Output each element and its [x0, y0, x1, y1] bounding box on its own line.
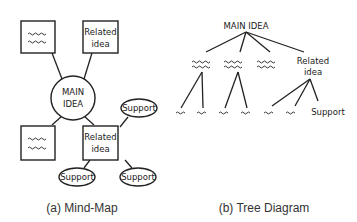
branch — [206, 32, 246, 52]
branch — [246, 32, 270, 52]
caption-mind-map: (a) Mind-Map — [46, 201, 118, 215]
squiggle-icon — [241, 112, 250, 114]
connector — [84, 53, 92, 79]
squiggle-icon — [176, 112, 185, 114]
tree-root-label: MAIN IDEA — [224, 21, 269, 31]
support-label: Support — [121, 172, 155, 182]
squiggle-icon — [257, 66, 275, 68]
main-idea-label: IDEA — [63, 99, 83, 109]
support-label: Support — [60, 172, 94, 182]
squiggle-icon — [264, 112, 273, 114]
connector — [84, 116, 94, 125]
branch — [272, 79, 310, 106]
diagram-canvas: Related idea MAIN IDEA Support Related i… — [0, 0, 357, 222]
caption-tree-diagram: (b) Tree Diagram — [219, 201, 310, 215]
squiggle-icon — [224, 61, 242, 63]
support-label: Support — [122, 103, 156, 113]
branch — [181, 72, 202, 108]
main-idea-circle — [51, 76, 95, 120]
squiggle-icon — [219, 112, 228, 114]
node-label: Related — [84, 132, 116, 142]
squiggle-icon — [257, 61, 275, 63]
connector — [52, 53, 62, 79]
main-idea-label: MAIN — [62, 87, 84, 97]
squiggle-icon — [224, 66, 242, 68]
connector — [52, 116, 62, 125]
branch — [295, 79, 310, 106]
idea-box-bottom-left — [21, 126, 55, 160]
node-label: idea — [91, 39, 109, 49]
tree-node-label: Related — [297, 56, 329, 66]
tree-support-label: Support — [311, 107, 345, 117]
squiggle-icon — [192, 66, 210, 68]
tree-node-label: idea — [304, 67, 322, 77]
branch — [202, 72, 203, 108]
squiggle-icon — [286, 112, 295, 114]
idea-box-top-left — [21, 21, 55, 53]
tree-diagram: MAIN IDEA Related idea Support (b) Tre — [176, 21, 345, 215]
connector — [125, 160, 132, 168]
branch — [246, 32, 304, 52]
squiggle-icon — [197, 112, 206, 114]
node-label: Related — [84, 27, 116, 37]
connector — [84, 160, 90, 168]
squiggle-icon — [192, 61, 210, 63]
connector — [120, 117, 128, 127]
node-label: idea — [91, 144, 109, 154]
branch — [310, 79, 318, 101]
mind-map: Related idea MAIN IDEA Support Related i… — [21, 21, 157, 215]
branch — [225, 72, 238, 108]
branch — [238, 72, 247, 108]
